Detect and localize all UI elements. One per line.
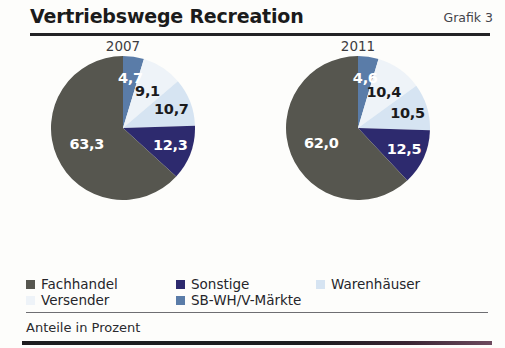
legend-item-warenh-user[interactable]: Warenhäuser [316, 276, 420, 292]
legend-item-sonstige[interactable]: Sonstige [176, 276, 249, 292]
footnote-text: Anteile in Prozent [26, 320, 140, 335]
legend-swatch-icon [176, 296, 185, 305]
bottom-divider [22, 341, 492, 345]
legend-row-2: VersenderSB-WH/V-Märkte [26, 292, 481, 308]
legend-swatch-icon [26, 296, 35, 305]
legend-item-label: SB-WH/V-Märkte [191, 292, 301, 308]
legend-item-versender[interactable]: Versender [26, 292, 109, 308]
legend-swatch-icon [316, 280, 325, 289]
pie-year-label: 2007 [48, 38, 198, 54]
figure-number-label: Grafik 3 [443, 10, 493, 25]
legend-item-fachhandel[interactable]: Fachhandel [26, 276, 118, 292]
chart-figure: Vertriebswege Recreation Grafik 3 20074,… [0, 0, 505, 348]
slice-value-label: 12,3 [153, 137, 188, 153]
legend-item-label: Sonstige [191, 276, 249, 292]
slice-value-label: 10,7 [154, 101, 189, 117]
legend-swatch-icon [176, 280, 185, 289]
chart-legend: FachhandelSonstigeWarenhäuser VersenderS… [26, 276, 481, 308]
legend-swatch-icon [26, 280, 35, 289]
slice-value-label: 9,1 [135, 83, 160, 99]
legend-item-label: Versender [41, 292, 109, 308]
title-divider [30, 33, 490, 36]
legend-item-label: Warenhäuser [331, 276, 420, 292]
slice-value-label: 10,4 [366, 84, 401, 100]
page-title: Vertriebswege Recreation [30, 5, 303, 27]
legend-divider [26, 312, 488, 313]
chart-header: Vertriebswege Recreation Grafik 3 [0, 0, 505, 36]
slice-value-label: 63,3 [69, 136, 104, 152]
slice-value-label: 12,5 [387, 141, 422, 157]
legend-item-sb-wh-v-m-rkte[interactable]: SB-WH/V-Märkte [176, 292, 301, 308]
legend-item-label: Fachhandel [41, 276, 118, 292]
slice-value-label: 10,5 [390, 105, 425, 121]
slice-value-label: 62,0 [304, 135, 339, 151]
legend-row-1: FachhandelSonstigeWarenhäuser [26, 276, 481, 292]
pie-year-label: 2011 [283, 38, 433, 54]
